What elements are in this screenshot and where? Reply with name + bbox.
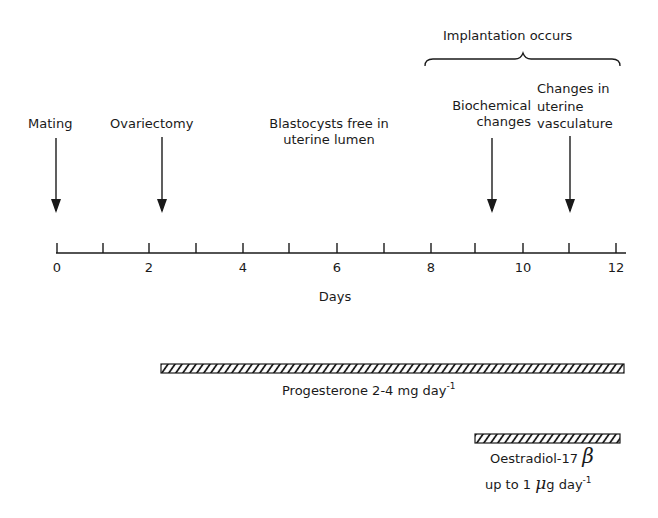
arrow-vasculature <box>565 136 575 213</box>
vasculature-line-2: uterine <box>537 98 613 116</box>
tick-label-4: 4 <box>233 260 253 276</box>
event-label-biochemical: Biochemical changes <box>420 98 531 130</box>
biochemical-line-1: Biochemical <box>420 98 531 114</box>
oestradiol-dose-post: g day <box>546 477 582 492</box>
mu-symbol: μ <box>535 473 546 493</box>
blastocysts-line-1: Blastocysts free in <box>248 116 410 132</box>
oestradiol-sup: -1 <box>583 475 592 485</box>
implantation-bracket <box>425 53 620 66</box>
tick-label-10: 10 <box>511 260 535 276</box>
event-label-ovariectomy: Ovariectomy <box>110 116 193 132</box>
progesterone-bar <box>161 364 624 373</box>
implantation-label: Implantation occurs <box>443 28 572 44</box>
oestradiol-label-line-1: Oestradiol-17 β <box>490 448 594 467</box>
vasculature-line-1: Changes in <box>537 80 613 98</box>
vasculature-line-3: vasculature <box>537 115 613 133</box>
oestradiol-bar <box>475 434 620 443</box>
event-label-mating: Mating <box>28 116 72 132</box>
blastocysts-line-2: uterine lumen <box>248 132 410 148</box>
beta-symbol: β <box>582 444 594 468</box>
tick-label-2: 2 <box>139 260 159 276</box>
progesterone-label: Progesterone 2-4 mg day-1 <box>282 378 455 399</box>
oestradiol-label-line-2: up to 1 μg day-1 <box>485 472 592 493</box>
event-label-blastocysts: Blastocysts free in uterine lumen <box>248 116 410 148</box>
days-axis <box>56 243 626 253</box>
timeline-graphics <box>0 0 658 518</box>
biochemical-line-2: changes <box>420 114 531 130</box>
progesterone-text: Progesterone 2-4 mg day <box>282 383 446 398</box>
oestradiol-dose-pre: up to 1 <box>485 477 535 492</box>
progesterone-sup: -1 <box>446 381 455 391</box>
tick-label-12: 12 <box>604 260 628 276</box>
tick-label-6: 6 <box>327 260 347 276</box>
axis-title: Days <box>315 289 355 305</box>
arrow-biochemical <box>487 138 497 213</box>
event-label-vasculature: Changes in uterine vasculature <box>537 80 613 133</box>
tick-label-0: 0 <box>47 260 67 276</box>
arrow-mating <box>51 138 61 213</box>
arrow-ovariectomy <box>157 137 167 213</box>
tick-label-8: 8 <box>421 260 441 276</box>
oestradiol-text: Oestradiol-17 <box>490 451 578 466</box>
